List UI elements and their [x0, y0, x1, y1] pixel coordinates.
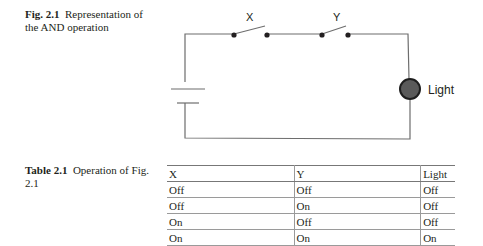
wire-top-right	[348, 34, 409, 79]
table-row: On Off Off	[167, 214, 455, 230]
light-label: Light	[428, 83, 455, 97]
switch-y-contact-left	[319, 32, 324, 37]
cell-light: Off	[421, 214, 455, 230]
header-y: Y	[294, 166, 421, 182]
table-caption: Table 2.1 Operation of Fig. 2.1	[25, 164, 155, 190]
cell-y: On	[294, 198, 421, 214]
light-bulb-icon	[400, 79, 420, 99]
switch-contacts	[231, 32, 350, 37]
switch-x-lever	[234, 26, 265, 34]
table-row: Off On Off	[167, 198, 455, 214]
and-circuit-diagram: X Y Light	[0, 0, 483, 150]
switch-y-contact-right	[345, 32, 350, 37]
cell-y: Off	[294, 182, 421, 198]
switch-x-contact-left	[231, 32, 236, 37]
table-header-row: X Y Light	[167, 166, 455, 182]
header-light: Light	[421, 166, 455, 182]
wire-bottom	[185, 99, 410, 139]
table-row: Off Off Off	[167, 182, 455, 198]
cell-x: On	[167, 230, 294, 246]
truth-table: X Y Light Off Off Off Off On Off On Off …	[167, 165, 455, 246]
cell-x: Off	[167, 198, 294, 214]
cell-x: Off	[167, 182, 294, 198]
table-label: Table 2.1	[25, 164, 67, 176]
cell-light: Off	[421, 198, 455, 214]
cell-y: Off	[294, 214, 421, 230]
cell-light: Off	[421, 182, 455, 198]
switch-x-contact-right	[264, 32, 269, 37]
header-x: X	[167, 166, 294, 182]
switch-y-lever	[322, 26, 346, 34]
switch-y-label: Y	[333, 11, 341, 23]
cell-y: On	[294, 230, 421, 246]
table-row: On On On	[167, 230, 455, 246]
cell-light: On	[421, 230, 455, 246]
wire-top-left	[185, 34, 234, 82]
cell-x: On	[167, 214, 294, 230]
switch-x-label: X	[246, 11, 254, 23]
